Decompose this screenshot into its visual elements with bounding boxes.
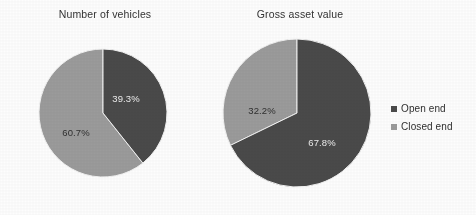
legend-label-closed-end: Closed end: [401, 121, 453, 132]
legend-swatch-open-end-icon: [391, 106, 397, 112]
legend-label-open-end: Open end: [401, 103, 446, 114]
chart-legend: Open end Closed end: [391, 103, 453, 132]
legend-swatch-closed-end-icon: [391, 124, 397, 130]
pie-slice-label-closed-end-gav: 32.2%: [248, 105, 276, 116]
legend-item-open-end[interactable]: Open end: [391, 103, 453, 114]
pie-slice-label-open-end-gav: 67.8%: [308, 137, 336, 148]
pie-chart-gross-asset-value: 32.2% 67.8%: [222, 38, 372, 188]
chart-title-gross-asset-value: Gross asset value: [220, 8, 380, 20]
chart-title-number-of-vehicles: Number of vehicles: [25, 8, 185, 20]
pie-chart-number-of-vehicles: 39.3% 60.7%: [36, 46, 170, 180]
legend-item-closed-end[interactable]: Closed end: [391, 121, 453, 132]
pie-chart-figure: Number of vehicles 39.3% 60.7% Gross ass…: [0, 0, 476, 215]
pie-slice-label-closed-end-vehicles: 60.7%: [62, 127, 90, 138]
pie-slice-label-open-end-vehicles: 39.3%: [112, 93, 140, 104]
